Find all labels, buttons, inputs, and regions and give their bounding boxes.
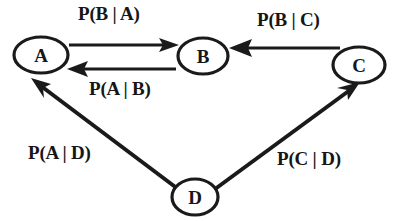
edge-label-a-given-d: P(A | D): [28, 143, 91, 162]
edge-b-to-a: [67, 61, 176, 77]
edge-label-b-given-c: P(B | C): [257, 10, 320, 29]
edge-label-a-given-b: P(A | B): [89, 79, 151, 98]
node-a-label: A: [34, 45, 48, 66]
edge-d-to-a-arrowhead: [31, 78, 51, 98]
node-a[interactable]: A: [14, 37, 68, 73]
node-b[interactable]: B: [178, 38, 228, 74]
node-c-label: C: [352, 55, 366, 76]
edge-label-b-given-a: P(B | A): [78, 4, 140, 23]
node-b-label: B: [197, 46, 210, 67]
edge-d-to-c: [211, 82, 360, 192]
edge-d-to-a-line: [41, 86, 178, 189]
edge-a-to-b: [69, 38, 179, 52]
node-d-label: D: [188, 187, 202, 208]
graph-svg: A B C D: [0, 0, 395, 221]
node-c[interactable]: C: [333, 47, 385, 83]
edge-d-to-c-line: [211, 90, 350, 192]
diagram-canvas: A B C D P(B | A) P(A | B) P(B | C) P(A |…: [0, 0, 395, 221]
edge-c-to-b: [229, 39, 340, 57]
edge-label-c-given-d: P(C | D): [277, 149, 341, 168]
node-d[interactable]: D: [172, 179, 218, 215]
